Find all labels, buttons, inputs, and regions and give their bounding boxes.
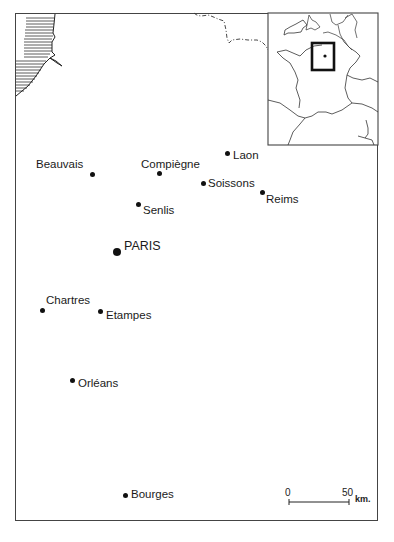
city-marker-chartres — [40, 308, 45, 313]
city-label-laon: Laon — [233, 149, 259, 161]
scale-unit-label: km. — [355, 494, 371, 504]
city-label-senlis: Senlis — [143, 204, 174, 216]
city-marker-laon — [225, 151, 230, 156]
city-label-bourges: Bourges — [131, 488, 174, 500]
city-marker-reims — [260, 190, 265, 195]
city-label-reims: Reims — [266, 193, 299, 205]
city-marker-beauvais — [90, 172, 95, 177]
scale-max-label: 50 — [342, 487, 353, 498]
city-marker-etampes — [98, 309, 103, 314]
city-marker-soissons — [201, 181, 206, 186]
city-label-compiegne: Compiègne — [141, 158, 200, 170]
city-marker-senlis — [136, 202, 141, 207]
city-marker-paris — [113, 248, 121, 256]
city-label-chartres: Chartres — [46, 294, 90, 306]
scale-zero-label: 0 — [285, 487, 291, 498]
city-label-paris: PARIS — [124, 240, 161, 252]
sea-hatching — [16, 18, 54, 91]
coastline — [16, 14, 62, 96]
city-label-etampes: Etampes — [106, 309, 151, 321]
city-marker-orleans — [70, 378, 75, 383]
city-marker-compiegne — [157, 171, 162, 176]
city-marker-bourges — [123, 493, 128, 498]
city-label-beauvais: Beauvais — [36, 158, 83, 170]
inset-locator-map — [268, 13, 378, 145]
city-label-soissons: Soissons — [208, 177, 255, 189]
national-border — [194, 13, 268, 50]
scale-bar — [289, 499, 349, 505]
city-label-orleans: Orléans — [78, 377, 118, 389]
